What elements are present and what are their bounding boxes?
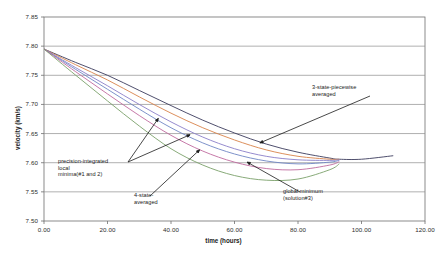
x-tick-label: 100.00 xyxy=(342,226,382,233)
y-tick-label: 7.65 xyxy=(6,130,38,137)
y-tick-label: 7.75 xyxy=(6,71,38,78)
annotation-global-minimum: global minimum (solution#3) xyxy=(283,188,323,201)
y-tick-label: 7.70 xyxy=(6,100,38,107)
y-tick-label: 7.50 xyxy=(6,217,38,224)
x-tick-label: 60.00 xyxy=(215,226,255,233)
y-axis-title: velocity (km/s) xyxy=(14,106,21,150)
chart-figure: 7.507.557.607.657.707.757.807.85 0.0020.… xyxy=(0,0,447,255)
x-tick-label: 120.00 xyxy=(405,226,445,233)
annotation-precision-integrated-local-minima: precision-integrated local minima(#1 and… xyxy=(58,158,108,178)
annotation-4-state-averaged: 4-state- averaged xyxy=(134,192,158,205)
x-tick-label: 0.00 xyxy=(24,226,64,233)
x-tick-label: 20.00 xyxy=(88,226,128,233)
annotation-3-state-piecewise-averaged: 3-state-piecewise averaged xyxy=(312,84,356,97)
y-tick-label: 7.60 xyxy=(6,159,38,166)
x-tick-label: 40.00 xyxy=(151,226,191,233)
y-tick-label: 7.80 xyxy=(6,42,38,49)
y-tick-label: 7.55 xyxy=(6,188,38,195)
chart-canvas xyxy=(0,0,447,255)
plot-area-border xyxy=(44,17,425,221)
x-axis-title: time (hours) xyxy=(0,237,447,244)
x-axis-ticks xyxy=(44,221,425,224)
x-tick-label: 80.00 xyxy=(278,226,318,233)
y-axis-ticks xyxy=(41,17,44,221)
y-tick-label: 7.85 xyxy=(6,13,38,20)
